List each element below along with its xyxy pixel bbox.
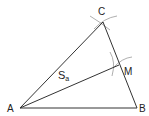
median-label-main: S xyxy=(58,69,65,81)
triangle-diagram: A B C M Sa xyxy=(0,0,149,116)
median-label-sub: a xyxy=(65,75,69,82)
side-ca xyxy=(20,22,103,108)
label-m: M xyxy=(124,66,132,77)
median-label: Sa xyxy=(58,69,69,82)
triangle-sides xyxy=(20,22,137,108)
median-am xyxy=(20,65,119,108)
side-bc xyxy=(103,22,137,108)
label-b: B xyxy=(139,103,146,114)
label-c: C xyxy=(98,6,105,17)
arc-at-m-1 xyxy=(110,52,114,76)
label-a: A xyxy=(7,103,14,114)
